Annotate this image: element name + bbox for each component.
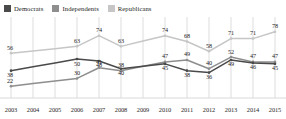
data-label-independents-2006: 30 <box>74 69 80 76</box>
legend-item-independents[interactable]: Independents <box>52 5 98 12</box>
x-tick-2007: 2007 <box>88 103 110 117</box>
data-label-independents-2011: 49 <box>184 50 190 57</box>
legend-swatch-independents <box>52 5 59 12</box>
x-tick-2013: 2013 <box>220 103 242 117</box>
data-point-independents-2003[interactable] <box>10 85 13 88</box>
data-point-independents-2006[interactable] <box>76 77 79 80</box>
x-tick-2006: 2006 <box>66 103 88 117</box>
data-point-republicans-2003[interactable] <box>10 52 13 55</box>
data-label-democrats-2003: 38 <box>7 71 13 78</box>
x-tick-2005: 2005 <box>44 103 66 117</box>
data-point-republicans-2006[interactable] <box>76 45 79 48</box>
data-label-republicans-2013: 71 <box>228 29 234 36</box>
legend-label-democrats: Democrats <box>14 5 43 12</box>
legend-label-republicans: Republicans <box>118 5 152 12</box>
x-axis-tick-labels: 2003200420052006200720082009201020112012… <box>0 103 286 117</box>
x-tick-2008: 2008 <box>110 103 132 117</box>
data-label-republicans-2008: 63 <box>118 37 124 44</box>
line-chart-svg: 5663746374685871717822304138474940524747… <box>0 17 286 99</box>
x-tick-2009: 2009 <box>132 103 154 117</box>
x-tick-2012: 2012 <box>198 103 220 117</box>
legend-swatch-democrats <box>4 5 11 12</box>
data-label-republicans-2007: 74 <box>96 26 102 33</box>
data-label-democrats-2007: 48 <box>96 61 102 68</box>
data-point-republicans-2015[interactable] <box>274 31 277 34</box>
x-tick-2004: 2004 <box>22 103 44 117</box>
x-tick-2010: 2010 <box>154 103 176 117</box>
data-label-republicans-2012: 58 <box>206 42 212 49</box>
data-label-independents-2014: 47 <box>250 52 256 59</box>
data-point-republicans-2010[interactable] <box>164 34 167 37</box>
data-point-republicans-2007[interactable] <box>98 34 101 37</box>
chart-container: Democrats Independents Republicans 56637… <box>0 0 286 119</box>
data-label-republicans-2010: 74 <box>162 26 168 33</box>
data-label-republicans-2003: 56 <box>7 44 13 51</box>
data-label-democrats-2014: 46 <box>250 63 256 70</box>
data-label-independents-2012: 40 <box>206 59 212 66</box>
data-label-independents-2015: 47 <box>272 52 278 59</box>
data-label-democrats-2008: 40 <box>118 69 124 76</box>
data-label-republicans-2015: 78 <box>272 22 278 29</box>
data-point-republicans-2008[interactable] <box>120 45 123 48</box>
data-label-republicans-2011: 68 <box>184 32 190 39</box>
legend-item-democrats[interactable]: Democrats <box>4 5 43 12</box>
data-point-independents-2012[interactable] <box>208 67 211 70</box>
data-label-republicans-2006: 63 <box>74 37 80 44</box>
legend-swatch-republicans <box>108 5 115 12</box>
data-label-democrats-2013: 49 <box>228 60 234 67</box>
data-label-republicans-2014: 71 <box>250 29 256 36</box>
x-tick-2011: 2011 <box>176 103 198 117</box>
data-point-republicans-2012[interactable] <box>208 50 211 53</box>
legend-item-republicans[interactable]: Republicans <box>108 5 152 12</box>
data-point-independents-2011[interactable] <box>186 59 189 62</box>
data-label-democrats-2015: 45 <box>272 64 278 71</box>
data-label-independents-2013: 52 <box>228 48 234 55</box>
x-tick-2003: 2003 <box>0 103 22 117</box>
data-point-independents-2013[interactable] <box>230 56 233 59</box>
data-label-independents-2008: 38 <box>118 61 124 68</box>
x-tick-2014: 2014 <box>242 103 264 117</box>
data-label-democrats-2010: 45 <box>162 64 168 71</box>
data-label-democrats-2006: 50 <box>74 60 80 67</box>
chart-legend: Democrats Independents Republicans <box>4 3 152 14</box>
data-label-democrats-2011: 38 <box>184 71 190 78</box>
legend-label-independents: Independents <box>62 5 98 12</box>
plot-area: 5663746374685871717822304138474940524747… <box>0 17 286 99</box>
x-tick-2015: 2015 <box>264 103 286 117</box>
data-label-independents-2010: 47 <box>162 52 168 59</box>
data-point-republicans-2013[interactable] <box>230 37 233 40</box>
data-point-republicans-2014[interactable] <box>252 37 255 40</box>
data-point-republicans-2011[interactable] <box>186 40 189 43</box>
data-label-democrats-2012: 36 <box>206 73 212 80</box>
